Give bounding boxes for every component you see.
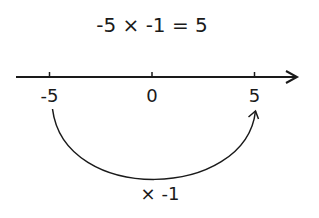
tick-label: 0 <box>146 85 157 106</box>
tick-label: 5 <box>249 85 260 106</box>
equation-text: -5 × -1 = 5 <box>96 13 208 37</box>
jump-arc <box>53 109 256 179</box>
tick-label: -5 <box>41 85 59 106</box>
number-line-diagram: -5 × -1 = 5 -505 × -1 <box>0 0 319 218</box>
jump-arrowhead-icon <box>249 111 259 119</box>
jump-label: × -1 <box>141 183 180 204</box>
